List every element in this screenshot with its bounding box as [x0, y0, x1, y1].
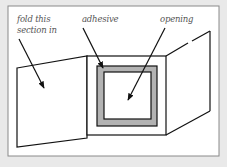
fold-label: fold this section in — [17, 14, 57, 36]
left-fold-panel — [17, 56, 87, 147]
adhesive-label: adhesive — [82, 14, 118, 25]
opening-window — [104, 72, 151, 119]
opening-label: opening — [160, 14, 193, 25]
fold-label-line1: fold this — [17, 14, 57, 25]
fold-label-line2: section in — [17, 25, 57, 36]
